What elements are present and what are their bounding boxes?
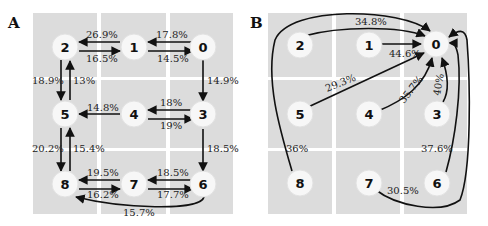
panel-b-label: B [250,14,263,32]
figure: A [0,0,488,226]
edge-label: 14.9% [207,75,239,86]
edge-label: 17.7% [157,189,189,200]
svg-text:8: 8 [60,177,69,192]
svg-text:6: 6 [432,176,441,191]
edge-label: 13% [73,75,95,86]
svg-text:5: 5 [60,107,69,122]
svg-text:0: 0 [198,40,207,55]
svg-text:2: 2 [60,40,69,55]
svg-text:4: 4 [129,107,138,122]
edge-label: 16.5% [86,53,118,64]
edge-label: 36% [286,143,308,154]
edge-label: 15.7% [123,207,155,218]
edge-label: 17.8% [156,29,188,40]
svg-text:3: 3 [432,107,441,122]
svg-text:3: 3 [198,107,207,122]
svg-text:2: 2 [295,38,304,53]
node-a-5: 5 [52,101,78,127]
node-a-1: 1 [121,34,147,60]
svg-text:5: 5 [295,107,304,122]
edge-label: 18.5% [157,167,189,178]
edge-label: 30.5% [387,185,419,196]
edge-label: 16.2% [87,189,119,200]
svg-text:6: 6 [198,177,207,192]
node-a-2: 2 [52,34,78,60]
edge-label: 44.6% [389,48,421,59]
edge-label: 14.5% [157,53,189,64]
edge-label: 37.6% [421,143,453,154]
svg-text:0: 0 [431,37,440,52]
svg-text:7: 7 [129,177,138,192]
node-b-1: 1 [356,32,382,58]
svg-text:1: 1 [129,40,138,55]
edge-label: 26.9% [86,29,118,40]
node-a-7: 7 [121,171,147,197]
svg-text:8: 8 [295,176,304,191]
edge-label: 19.5% [87,167,119,178]
panel-a: A [7,13,239,218]
edge-label: 18.5% [207,143,239,154]
node-b-4: 4 [356,101,382,127]
node-b-3: 3 [424,101,450,127]
panel-b: B [250,13,469,214]
node-b-8: 8 [287,170,313,196]
edge-label: 18% [160,97,182,108]
node-b-5: 5 [287,101,313,127]
svg-text:7: 7 [364,176,373,191]
node-b-7: 7 [356,170,382,196]
svg-text:4: 4 [364,107,373,122]
node-b-6: 6 [424,170,450,196]
edge-label: 14.8% [87,102,119,113]
node-a-6: 6 [190,171,216,197]
edge-label: 19% [160,120,182,131]
panel-a-label: A [7,14,20,32]
svg-text:1: 1 [364,38,373,53]
node-b-2: 2 [287,32,313,58]
edge-label: 20.2% [32,143,64,154]
edge-label: 18.9% [32,75,64,86]
node-a-3: 3 [190,101,216,127]
edge-label: 34.8% [355,16,387,27]
node-a-0: 0 [190,34,216,60]
node-b-0: 0 [423,31,449,57]
node-a-8: 8 [52,171,78,197]
node-a-4: 4 [121,101,147,127]
edge-label: 15.4% [73,143,105,154]
